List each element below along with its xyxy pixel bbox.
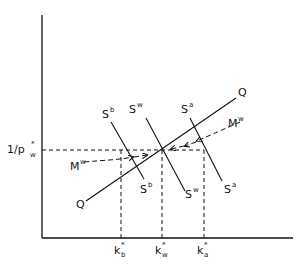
tick-sup: * [204,241,208,249]
tick-sub: a [204,251,208,259]
label-base: M [70,160,80,173]
y-axis-label: 1/p * w [7,140,36,159]
sb-label-bottom: S b [140,181,153,196]
label-sup: a [189,101,193,109]
mw-left-arrow-1 [84,157,133,162]
label-sup: w [137,101,143,109]
tick-base: k [114,244,121,257]
label-base: S [140,183,147,196]
x-tick-kb: k * b [114,241,126,259]
diagram-canvas: 1/p * w k * b k * w k * a Q Q S b S b S … [0,0,305,275]
label-sup: b [110,106,115,114]
tick-sup: * [121,241,125,249]
mw-label-left: M w [70,158,86,173]
tick-base: k [197,244,204,257]
sa-label-top: S a [181,101,193,116]
label-base: M [228,117,238,130]
mw-label-right: M w [228,115,244,130]
tick-sub: w [162,251,168,259]
q-label-bottom: Q [76,198,85,211]
label-base: S [129,103,136,116]
x-tick-ka: k * a [197,241,208,259]
y-label-sub: w [30,151,36,159]
tick-sub: b [121,251,126,259]
label-sup: w [193,186,199,194]
y-label-base: 1/p [7,143,25,156]
sw-label-bottom: S w [185,186,199,201]
label-sup: a [232,181,236,189]
sa-label-bottom: S a [224,181,236,196]
y-label-sup: * [31,140,35,148]
tick-base: k [155,244,162,257]
q-label-top: Q [238,86,247,99]
label-base: S [102,108,109,121]
sw-label-top: S w [129,101,143,116]
x-tick-kw: k * w [155,241,168,259]
label-sup: w [238,115,244,123]
mw-right-arrow-3 [171,146,184,149]
label-sup: w [80,158,86,166]
label-base: S [185,188,192,201]
sb-label-top: S b [102,106,115,121]
tick-sup: * [162,241,166,249]
label-sup: b [148,181,153,189]
sa-curve [190,118,222,181]
mw-left-arrow-2 [134,155,147,157]
label-base: S [224,183,231,196]
label-base: S [181,103,188,116]
mw-right-arrow-2 [185,142,196,146]
